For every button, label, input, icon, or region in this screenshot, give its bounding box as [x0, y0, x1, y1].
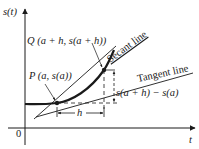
origin-label: 0 — [16, 128, 21, 139]
point-p-label: P (a, s(a)) — [28, 70, 72, 82]
point-p — [55, 101, 59, 105]
horizontal-measure: h — [57, 107, 104, 118]
y-axis-label: s(t) — [3, 6, 18, 18]
p-label-pointer — [45, 84, 55, 100]
secant-tangent-diagram: s(t) t 0 s(a + h) − s(a) h Q (a + h, s(a… — [0, 0, 199, 149]
h-label: h — [77, 107, 82, 118]
tangent-line-label: Tangent line — [136, 62, 190, 84]
point-q-label: Q (a + h, s(a + h)) — [27, 35, 107, 47]
t-axis-label: t — [189, 134, 193, 145]
vertical-measure-label: s(a + h) − s(a) — [116, 87, 179, 99]
point-q — [102, 68, 106, 72]
secant-line-label: Secant line — [105, 28, 149, 64]
